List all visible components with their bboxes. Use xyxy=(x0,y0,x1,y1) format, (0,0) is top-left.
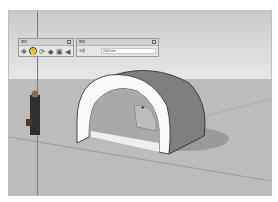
zoom-extents-icon[interactable]: ▣ xyxy=(56,47,63,55)
measurement-value-field[interactable]: 2000 mm xyxy=(101,48,156,54)
zoom-icon[interactable]: ⟳ xyxy=(39,47,45,55)
person-figure xyxy=(26,91,40,136)
camera-toolbar-header: 相机 xyxy=(19,39,73,46)
close-icon[interactable] xyxy=(67,40,71,44)
measurement-label: 长度 xyxy=(79,49,95,53)
previous-view-icon[interactable]: ◀ xyxy=(65,47,71,55)
measurements-title: 数值 xyxy=(79,40,85,44)
model-viewport[interactable]: ✚ 相机 ✥ ✋ ⟳ ◆ ▣ ◀ 数值 长度 2000 mm xyxy=(8,10,272,196)
close-icon[interactable] xyxy=(152,40,156,44)
measurements-toolbar-header: 数值 xyxy=(77,39,158,46)
measurements-toolbar: 数值 长度 2000 mm xyxy=(76,38,159,57)
camera-toolbar-title: 相机 xyxy=(21,40,27,44)
zoom-window-icon[interactable]: ◆ xyxy=(48,47,54,55)
pan-icon[interactable]: ✋ xyxy=(29,47,37,55)
camera-toolbar: 相机 ✥ ✋ ⟳ ◆ ▣ ◀ xyxy=(18,38,74,57)
orbit-icon[interactable]: ✥ xyxy=(21,47,27,55)
